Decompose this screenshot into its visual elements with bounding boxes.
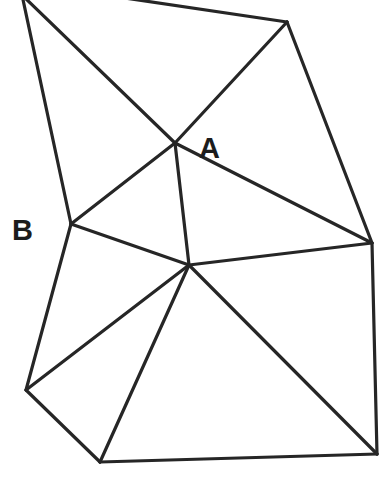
edge-tm-tr: [118, 0, 287, 22]
edge-b-c: [71, 224, 189, 265]
edge-tr-a: [175, 22, 287, 143]
edges-group: [22, 0, 377, 462]
edge-b-l: [26, 224, 71, 390]
edge-tr-r: [287, 22, 372, 243]
edge-bl-br: [100, 454, 377, 462]
triangulation-diagram: [0, 0, 379, 478]
edge-r-br: [372, 243, 377, 454]
edge-l-bl: [26, 390, 100, 462]
edge-c-br: [189, 265, 377, 454]
edge-bl-c: [100, 265, 189, 462]
edge-a-c: [175, 143, 189, 265]
label-b: B: [12, 216, 33, 245]
edge-tl-a: [22, 0, 175, 143]
edge-l-c: [26, 265, 189, 390]
label-a: A: [199, 134, 220, 163]
edge-c-r: [189, 243, 372, 265]
edge-a-b: [71, 143, 175, 224]
